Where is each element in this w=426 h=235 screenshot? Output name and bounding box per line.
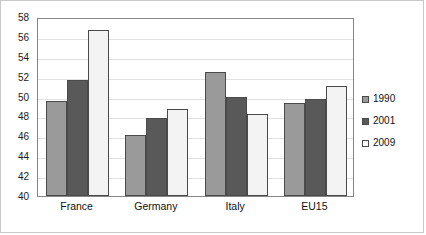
y-axis-tick-label: 58 — [18, 13, 29, 23]
x-axis-tick-label: France — [60, 200, 93, 212]
bar-2009-eu15 — [326, 86, 347, 196]
y-axis: 40424446485052545658 — [1, 18, 33, 197]
bar-2009-italy — [247, 114, 268, 196]
legend-swatch-icon — [362, 140, 369, 147]
legend-item-1990: 1990 — [362, 94, 395, 104]
bar-2001-eu15 — [305, 99, 326, 196]
bar-1990-eu15 — [284, 103, 305, 196]
bar-series-layer — [38, 19, 353, 196]
legend-item-label: 2009 — [373, 138, 395, 148]
y-axis-tick-label: 52 — [18, 73, 29, 83]
bar-group — [197, 19, 276, 196]
bar-1990-france — [46, 101, 67, 196]
legend-swatch-icon — [362, 118, 369, 125]
legend-item-2009: 2009 — [362, 138, 395, 148]
bar-group — [117, 19, 196, 196]
bar-2001-france — [67, 80, 88, 196]
legend-item-2001: 2001 — [362, 116, 395, 126]
bar-2009-germany — [167, 109, 188, 196]
bar-1990-germany — [125, 135, 146, 196]
chart-container: 40424446485052545658 FranceGermanyItalyE… — [0, 0, 424, 233]
y-axis-tick-label: 44 — [18, 152, 29, 162]
bar-2001-germany — [146, 118, 167, 196]
y-axis-tick-label: 56 — [18, 33, 29, 43]
y-axis-tick-label: 46 — [18, 132, 29, 142]
y-axis-tick-label: 40 — [18, 192, 29, 202]
y-axis-tick-label: 50 — [18, 93, 29, 103]
plot-area — [37, 18, 354, 197]
bar-1990-italy — [205, 72, 226, 196]
chart-legend: 199020012009 — [362, 94, 395, 148]
x-axis: FranceGermanyItalyEU15 — [37, 200, 354, 218]
legend-swatch-icon — [362, 96, 369, 103]
x-axis-tick-label: Germany — [134, 200, 177, 212]
x-axis-tick-label: Italy — [225, 200, 244, 212]
bar-2001-italy — [226, 97, 247, 196]
y-axis-tick-label: 42 — [18, 172, 29, 182]
legend-item-label: 2001 — [373, 116, 395, 126]
y-axis-tick-label: 48 — [18, 112, 29, 122]
bar-group — [276, 19, 355, 196]
x-axis-tick-label: EU15 — [301, 200, 327, 212]
bar-group — [38, 19, 117, 196]
bar-2009-france — [88, 30, 109, 196]
y-axis-tick-label: 54 — [18, 53, 29, 63]
legend-item-label: 1990 — [373, 94, 395, 104]
